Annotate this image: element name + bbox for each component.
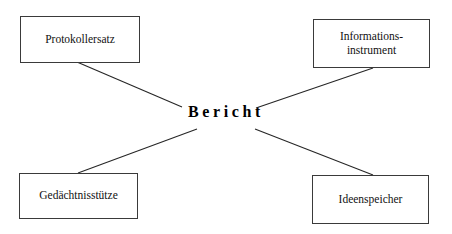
center-node: Bericht: [0, 103, 452, 121]
node-label-gedaechtnisstuetze: Gedächtnisstütze: [39, 189, 118, 203]
connector-gedaechtnisstuetze-to-center: [78, 129, 197, 173]
node-label-ideenspeicher: Ideenspeicher: [339, 193, 403, 207]
node-box-informationsinstrument: Informations- instrument: [313, 19, 430, 68]
node-label-protokollersatz: Protokollersatz: [45, 33, 115, 47]
connector-protokollersatz-to-center: [77, 62, 182, 107]
center-node-label: Bericht: [188, 103, 264, 120]
node-box-ideenspeicher: Ideenspeicher: [312, 175, 429, 224]
mindmap-diagram: Protokollersatz Informations- instrument…: [0, 0, 452, 234]
connector-informationsinstrument-to-center: [256, 68, 373, 108]
node-box-gedaechtnisstuetze: Gedächtnisstütze: [19, 173, 138, 219]
connector-ideenspeicher-to-center: [255, 129, 373, 175]
node-box-protokollersatz: Protokollersatz: [20, 16, 140, 63]
node-label-informationsinstrument: Informations- instrument: [340, 30, 403, 57]
